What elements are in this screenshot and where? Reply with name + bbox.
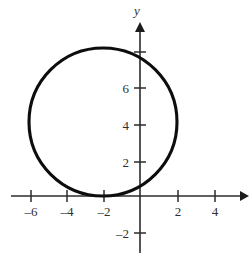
x-tick-label-minus2: –2 — [97, 204, 111, 219]
circle-graph-figure: –6 –4 –2 2 4 6 4 2 –2 y — [0, 0, 252, 259]
x-tick-label-minus6: –6 — [24, 204, 39, 219]
y-tick-label-2: 2 — [123, 155, 130, 170]
x-tick-label-4: 4 — [212, 204, 219, 219]
circle-curve — [29, 48, 177, 196]
x-tick-label-2: 2 — [175, 204, 182, 219]
y-axis-arrow-icon — [135, 22, 145, 32]
x-tick-label-minus4: –4 — [60, 204, 75, 219]
x-axis-group: –6 –4 –2 2 4 — [11, 190, 249, 219]
coordinate-plane-svg: –6 –4 –2 2 4 6 4 2 –2 y — [0, 0, 252, 259]
plotted-circle-group — [29, 48, 177, 196]
y-tick-label-4: 4 — [123, 118, 130, 133]
y-tick-label-minus2: –2 — [115, 226, 129, 241]
y-tick-label-6: 6 — [123, 81, 130, 96]
x-axis-arrow-icon — [240, 191, 249, 201]
y-axis-group: 6 4 2 –2 y — [115, 3, 146, 253]
y-axis-label: y — [132, 3, 140, 18]
